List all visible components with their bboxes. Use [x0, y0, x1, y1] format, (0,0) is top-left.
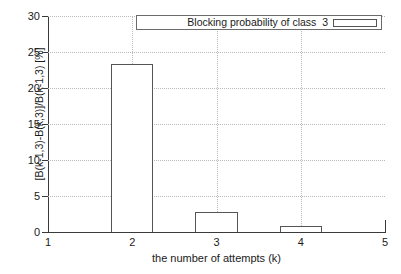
- y-tick-label: 15: [0, 119, 40, 130]
- bar-chart: [B(k-1,3)-B(k,3)]/B(k-1,3) [%] 051015202…: [0, 0, 401, 274]
- y-tick-label: 20: [0, 83, 40, 94]
- gridline-horizontal: [48, 196, 385, 197]
- x-tick-label: 4: [286, 236, 316, 248]
- bar: [280, 226, 322, 232]
- x-tick-label: 2: [117, 236, 147, 248]
- gridline-horizontal: [48, 52, 385, 53]
- gridline-horizontal: [48, 124, 385, 125]
- legend-entry-label: Blocking probability of class 3: [187, 17, 328, 28]
- legend-box-swatch: [333, 19, 377, 27]
- x-axis-title: the number of attempts (k): [48, 252, 385, 265]
- gridline-vertical: [217, 16, 218, 232]
- x-tick-label: 1: [33, 236, 63, 248]
- gridline-horizontal: [48, 88, 385, 89]
- y-tick-label: 10: [0, 155, 40, 166]
- x-tick-label: 5: [370, 236, 400, 248]
- legend: Blocking probability of class 3: [136, 15, 382, 30]
- x-tick-mark: [385, 220, 386, 233]
- x-tick-label: 3: [202, 236, 232, 248]
- gridline-horizontal: [48, 160, 385, 161]
- y-tick-label: 5: [0, 191, 40, 202]
- y-tick-label: 30: [0, 11, 40, 22]
- gridline-vertical: [301, 16, 302, 232]
- y-tick-label: 25: [0, 47, 40, 58]
- plot-area: [48, 16, 385, 232]
- bar: [111, 64, 153, 232]
- bar: [195, 212, 237, 232]
